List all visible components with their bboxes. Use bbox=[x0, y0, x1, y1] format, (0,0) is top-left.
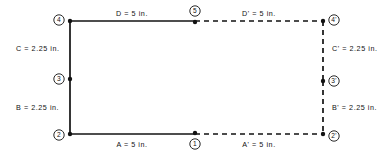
label-A: A = 5 in. bbox=[116, 140, 147, 149]
label-C: C = 2.25 in. bbox=[16, 44, 60, 53]
node-2-prime-dot bbox=[321, 132, 325, 136]
node-2-prime-label: 2' bbox=[331, 132, 336, 139]
node-2-dot bbox=[68, 132, 72, 136]
node-4-dot bbox=[68, 19, 72, 23]
node-1-dot bbox=[193, 131, 197, 135]
diagram-svg: D = 5 in.D' = 5 in.C = 2.25 in.B = 2.25 … bbox=[0, 0, 386, 160]
label-D: D = 5 in. bbox=[116, 9, 148, 18]
node-3-dot bbox=[68, 77, 72, 81]
node-4-prime-label: 4' bbox=[331, 16, 336, 23]
node-5-dot bbox=[193, 20, 197, 24]
node-4-prime-dot bbox=[321, 19, 325, 23]
label-B: B = 2.25 in. bbox=[16, 103, 59, 112]
diagram-canvas: D = 5 in.D' = 5 in.C = 2.25 in.B = 2.25 … bbox=[0, 0, 386, 160]
node-3-label: 3 bbox=[57, 75, 61, 82]
label-Cp: C' = 2.25 in. bbox=[332, 44, 377, 53]
node-1-label: 1 bbox=[193, 140, 197, 147]
label-Dp: D' = 5 in. bbox=[242, 9, 276, 18]
node-4-label: 4 bbox=[57, 16, 61, 23]
node-2-prime: 2' bbox=[321, 131, 339, 141]
nodes-layer: 454'33'212' bbox=[54, 6, 339, 149]
node-3-prime-dot bbox=[321, 79, 325, 83]
node-5-label: 5 bbox=[193, 7, 197, 14]
edges-layer bbox=[70, 21, 323, 134]
label-Ap: A' = 5 in. bbox=[242, 140, 275, 149]
label-Bp: B' = 2.25 in. bbox=[332, 103, 377, 112]
node-3-prime-label: 3' bbox=[331, 77, 336, 84]
node-2-label: 2 bbox=[57, 131, 61, 138]
